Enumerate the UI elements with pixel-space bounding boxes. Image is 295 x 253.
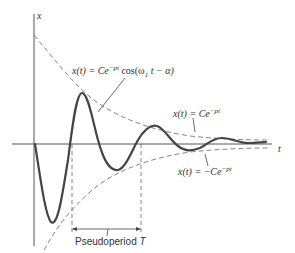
damped-oscillation-curve (35, 93, 266, 223)
lower-envelope-exp: −pt (221, 165, 231, 173)
arrowhead-right-icon (136, 227, 141, 231)
pseudoperiod-label: Pseudoperiod T (75, 237, 146, 247)
lower-envelope-leader (205, 154, 208, 166)
pseudoperiod-symbol: T (140, 236, 146, 247)
lower-envelope-curve (44, 148, 268, 250)
upper-envelope-label: x(t) = Ce−pt (173, 108, 220, 119)
upper-envelope-exp: −pt (210, 107, 220, 115)
y-axis-label: x (37, 11, 41, 21)
lower-envelope-lhs: x(t) = −Ce (178, 166, 221, 177)
damped-oscillation-diagram (0, 0, 295, 253)
curve-label-rhs: cos(ω (119, 65, 145, 76)
pseudoperiod-text: Pseudoperiod (75, 236, 140, 247)
curve-label-tail: t − α) (148, 65, 174, 76)
upper-envelope-lhs: x(t) = Ce (173, 108, 210, 119)
curve-label-lhs: x(t) = Ce (72, 65, 109, 76)
curve-equation-label: x(t) = Ce−pt cos(ω1 t − α) (72, 65, 174, 79)
pseudoperiod-leader (107, 229, 108, 236)
lower-envelope-label: x(t) = −Ce−pt (178, 166, 232, 177)
arrowhead-left-icon (72, 227, 77, 231)
curve-label-leader (98, 78, 125, 112)
curve-label-exp: −pt (109, 64, 119, 72)
upper-envelope-leader (193, 118, 195, 132)
t-axis-label: t (278, 144, 281, 154)
upper-envelope-curve (34, 35, 268, 140)
